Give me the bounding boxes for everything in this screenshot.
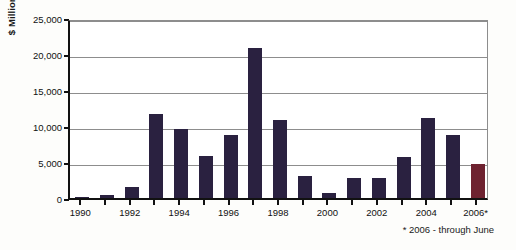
x-axis-tick-mark xyxy=(326,200,328,205)
bar-1992 xyxy=(125,187,139,198)
x-axis-tick-mark xyxy=(450,200,452,205)
x-axis-tick-mark xyxy=(302,200,304,205)
bar-1997 xyxy=(248,48,262,198)
x-axis-tick-label: 2004 xyxy=(404,207,448,218)
x-axis-tick-mark xyxy=(228,200,230,205)
x-axis-tick-mark xyxy=(351,200,353,205)
bar-1999 xyxy=(298,176,312,198)
bar-2002 xyxy=(372,178,386,198)
bar-1995 xyxy=(199,156,213,198)
bar-1998 xyxy=(273,120,287,198)
gridline xyxy=(70,57,487,58)
footnote-annotation: * 2006 - through June xyxy=(403,224,494,235)
x-axis-tick-label: 1992 xyxy=(108,207,152,218)
x-axis-tick-mark xyxy=(178,200,180,205)
x-axis-tick-mark xyxy=(252,200,254,205)
bar-1991 xyxy=(100,195,114,198)
bar-1996 xyxy=(224,135,238,198)
x-axis-tick-label: 1994 xyxy=(157,207,201,218)
bar-2000 xyxy=(322,193,336,198)
plot-area xyxy=(68,20,488,200)
x-axis-tick-label: 1996 xyxy=(207,207,251,218)
gridline xyxy=(70,21,487,22)
x-axis-tick-mark xyxy=(104,200,106,205)
x-axis-tick-label: 2002 xyxy=(355,207,399,218)
x-axis-tick-label: 1998 xyxy=(256,207,300,218)
y-axis-tick-label: 20,000 xyxy=(18,50,62,61)
bar-1994 xyxy=(174,129,188,198)
x-axis-tick-mark xyxy=(425,200,427,205)
gridline xyxy=(70,93,487,94)
bar-2006-est xyxy=(471,164,485,198)
bar-2005 xyxy=(446,135,460,198)
bar-chart: $ Millions 05,00010,00015,00020,00025,00… xyxy=(0,0,516,250)
x-axis-tick-label: 2000 xyxy=(305,207,349,218)
bar-2003 xyxy=(397,157,411,198)
x-axis-tick-mark xyxy=(79,200,81,205)
y-axis-tick-label: 25,000 xyxy=(18,14,62,25)
x-axis-tick-mark xyxy=(376,200,378,205)
bar-1990 xyxy=(75,197,89,198)
x-axis-tick-mark xyxy=(153,200,155,205)
y-axis-tick-label: 0 xyxy=(18,194,62,205)
y-axis-tick-label: 15,000 xyxy=(18,86,62,97)
x-axis-tick-mark xyxy=(129,200,131,205)
bar-2001 xyxy=(347,178,361,198)
y-axis-tick-label: 10,000 xyxy=(18,122,62,133)
bar-1993 xyxy=(149,114,163,198)
x-axis-tick-mark xyxy=(277,200,279,205)
x-axis-tick-label: 1990 xyxy=(58,207,102,218)
y-axis-tick-label: 5,000 xyxy=(18,158,62,169)
x-axis-tick-mark xyxy=(475,200,477,205)
bar-2004 xyxy=(421,118,435,198)
x-axis-tick-mark xyxy=(203,200,205,205)
x-axis-tick-mark xyxy=(401,200,403,205)
x-axis-tick-label: 2006* xyxy=(454,207,498,218)
